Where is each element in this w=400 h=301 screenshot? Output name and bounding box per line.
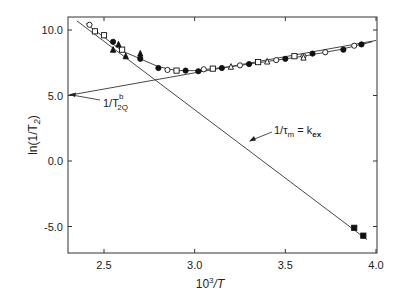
data-point-circle-open xyxy=(352,43,357,48)
x-tick-label: 3.0 xyxy=(187,259,202,271)
data-point-circle-filled xyxy=(219,65,224,70)
y-tick-label: -5.0 xyxy=(44,221,63,233)
data-point-triangle-filled xyxy=(138,50,143,56)
data-point-circle-filled xyxy=(156,65,161,70)
data-point-circle-filled xyxy=(359,42,364,47)
data-point-circle-filled xyxy=(138,56,143,61)
arrow-icon xyxy=(69,93,76,98)
data-point-circle-filled xyxy=(110,39,115,44)
svg-text:1/τm = kex: 1/τm = kex xyxy=(274,124,322,139)
data-point-circle-filled xyxy=(183,68,188,73)
data-point-circle-open xyxy=(323,50,328,55)
x-axis-label: 103/T xyxy=(196,276,226,291)
data-point-square-open xyxy=(120,47,125,52)
data-point-circle-open xyxy=(165,67,170,72)
x-tick-label: 2.5 xyxy=(96,259,111,271)
data-point-square-open xyxy=(256,59,261,64)
data-point-circle-open xyxy=(274,58,279,63)
data-point-circle-filled xyxy=(310,51,315,56)
x-tick-label: 3.5 xyxy=(278,259,293,271)
data-points xyxy=(87,22,366,238)
y-tick-label: 10.0 xyxy=(42,24,63,36)
tick-labels: 2.53.03.54.010.05.00.0-5.0 xyxy=(42,24,384,271)
line-fit xyxy=(86,23,373,70)
data-point-circle-filled xyxy=(246,61,251,66)
data-point-square-filled xyxy=(361,233,366,238)
data-point-square-open xyxy=(92,29,97,34)
y-tick-label: 5.0 xyxy=(48,90,63,102)
fit-lines xyxy=(68,21,376,240)
data-point-triangle-filled xyxy=(116,41,121,47)
x-tick-label: 4.0 xyxy=(368,259,383,271)
data-point-circle-filled xyxy=(283,56,288,61)
data-point-square-open xyxy=(101,33,106,38)
data-point-square-filled xyxy=(352,225,357,230)
svg-text:1/Tb2Q: 1/Tb2Q xyxy=(103,92,128,112)
y-axis-label: ln(1/T2) xyxy=(26,115,42,155)
y-tick-label: 0.0 xyxy=(48,155,63,167)
data-point-circle-open xyxy=(237,63,242,68)
data-point-square-open xyxy=(292,54,297,59)
data-point-circle-filled xyxy=(196,69,201,74)
data-point-circle-open xyxy=(87,22,92,27)
chart: 2.53.03.54.010.05.00.0-5.0 ln(1/T2) 103/… xyxy=(0,0,400,301)
data-point-square-open xyxy=(210,66,215,71)
data-point-circle-filled xyxy=(341,47,346,52)
data-point-circle-open xyxy=(201,67,206,72)
arrow-icon xyxy=(249,136,256,142)
annotation-tau-m: 1/τm = kex xyxy=(249,124,322,142)
data-point-square-open xyxy=(174,68,179,73)
annotation-t2q: 1/Tb2Q xyxy=(69,92,128,112)
